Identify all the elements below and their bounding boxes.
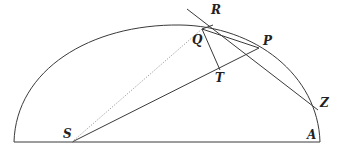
label-q: Q: [192, 34, 202, 46]
label-s: S: [63, 128, 72, 140]
label-z: Z: [320, 97, 329, 109]
arc: [14, 25, 320, 142]
label-t: T: [215, 72, 224, 84]
chord-q-p: [202, 29, 259, 48]
geometry-diagram: [0, 0, 353, 152]
tangent-line: [187, 9, 318, 110]
line-s-p: [72, 48, 259, 142]
label-r: R: [211, 4, 221, 16]
label-a: A: [307, 129, 316, 141]
line-s-q-dotted: [72, 29, 202, 142]
label-p: P: [263, 35, 272, 47]
line-q-t: [202, 29, 220, 70]
